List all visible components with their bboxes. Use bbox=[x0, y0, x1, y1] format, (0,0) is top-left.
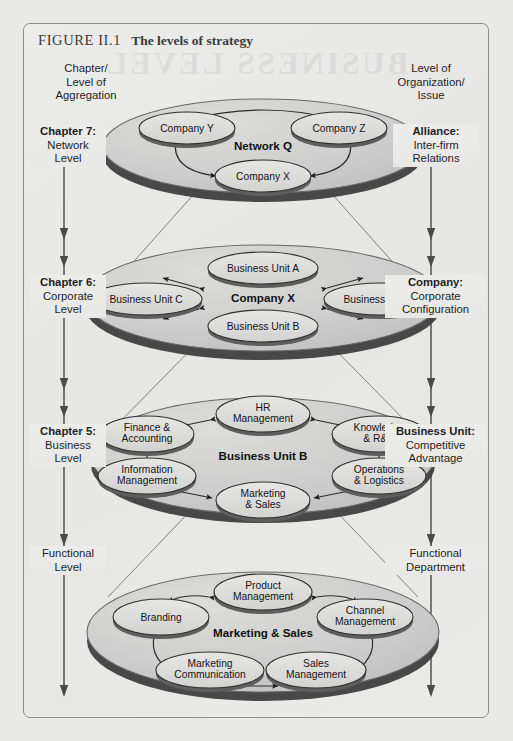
zoom-connector-lines bbox=[106, 176, 420, 597]
node-business-unit-b-corporate[interactable]: Business Unit B bbox=[208, 310, 318, 346]
node-company-x-network[interactable]: Company X bbox=[215, 160, 311, 196]
disc-label-corporate: Company X bbox=[231, 291, 295, 304]
node-label-branding: Branding bbox=[140, 612, 181, 623]
node-business-unit-c[interactable]: Business Unit C bbox=[90, 283, 202, 319]
left-label-network-line2: Network bbox=[33, 139, 103, 153]
left-label-network-line3: Level bbox=[33, 152, 103, 166]
left-label-functional: Functional Level bbox=[30, 546, 106, 575]
left-label-corporate: Chapter 6: Corporate Level bbox=[30, 275, 106, 318]
node-channel-management[interactable]: Channel Management bbox=[317, 599, 413, 639]
node-label-information-management-1: Information bbox=[121, 464, 173, 475]
node-label-marketing-communication-2: Communication bbox=[174, 669, 246, 680]
node-label-hr-management-1: HR bbox=[256, 402, 271, 413]
node-label-business-unit-a: Business Unit A bbox=[227, 263, 299, 274]
left-label-corporate-line3: Level bbox=[33, 303, 103, 317]
right-label-functional: Functional Department bbox=[385, 546, 486, 575]
left-label-business-line2: Business bbox=[33, 439, 103, 453]
right-label-corporate: Company: Corporate Configuration bbox=[385, 275, 486, 318]
node-label-company-x-network: Company X bbox=[236, 171, 290, 182]
left-label-corporate-line2: Corporate bbox=[33, 290, 103, 304]
node-label-channel-management-2: Management bbox=[335, 616, 395, 627]
node-label-channel-management-1: Channel bbox=[346, 605, 384, 616]
node-label-business-unit-c: Business Unit C bbox=[109, 294, 183, 305]
left-label-functional-line3: Level bbox=[33, 561, 103, 575]
node-branding[interactable]: Branding bbox=[113, 599, 209, 639]
right-label-corporate-line2: Corporate bbox=[388, 290, 483, 304]
node-company-z[interactable]: Company Z bbox=[291, 112, 387, 148]
node-label-marketing-sales-2: & Sales bbox=[245, 499, 281, 510]
node-label-information-management-2: Management bbox=[117, 475, 177, 486]
left-label-corporate-bold: Chapter 6: bbox=[33, 276, 103, 290]
figure-frame: BUSINESS LEVEL FIGURE II.1The levels of … bbox=[23, 23, 489, 718]
node-hr-management[interactable]: HR Management bbox=[216, 396, 310, 436]
level-disc-network[interactable]: Network Q Company Y Company Z bbox=[103, 99, 423, 202]
right-label-network-line3: Relations bbox=[396, 152, 476, 166]
diagram-stage: Chapter/ Level of Aggregation Level of O… bbox=[24, 24, 489, 718]
node-company-y[interactable]: Company Y bbox=[139, 112, 235, 148]
right-label-business-line2: Competitive bbox=[388, 439, 483, 453]
level-disc-business[interactable]: Business Unit B HR Management bbox=[91, 396, 435, 523]
disc-label-network: Network Q bbox=[234, 139, 292, 152]
right-label-business-bold: Business Unit: bbox=[388, 425, 483, 439]
node-information-management[interactable]: Information Management bbox=[98, 458, 196, 498]
left-label-network: Chapter 7: Network Level bbox=[30, 124, 106, 167]
node-product-management[interactable]: Product Management bbox=[214, 574, 312, 614]
node-label-product-management-1: Product bbox=[245, 580, 281, 591]
right-label-network: Alliance: Inter-firm Relations bbox=[393, 124, 479, 167]
disc-label-business: Business Unit B bbox=[219, 449, 308, 462]
left-label-network-bold: Chapter 7: bbox=[33, 125, 103, 139]
level-disc-functional[interactable]: Marketing & Sales Product Management bbox=[87, 572, 439, 701]
node-label-hr-management-2: Management bbox=[233, 413, 293, 424]
right-label-corporate-bold: Company: bbox=[388, 276, 483, 290]
node-label-marketing-sales-1: Marketing bbox=[240, 488, 285, 499]
left-label-business: Chapter 5: Business Level bbox=[30, 424, 106, 467]
node-label-operations-logistics-2: & Logistics bbox=[354, 475, 404, 486]
right-label-functional-line3: Department bbox=[388, 561, 483, 575]
node-label-marketing-communication-1: Marketing bbox=[187, 658, 232, 669]
left-aggregation-arrow-rail bbox=[60, 142, 68, 697]
left-label-business-bold: Chapter 5: bbox=[33, 425, 103, 439]
node-business-unit-a[interactable]: Business Unit A bbox=[208, 252, 318, 288]
right-label-business: Business Unit: Competitive Advantage bbox=[385, 424, 486, 467]
node-label-product-management-2: Management bbox=[233, 591, 293, 602]
node-label-sales-management-1: Sales bbox=[303, 658, 329, 669]
right-label-network-line2: Inter-firm bbox=[396, 139, 476, 153]
left-label-business-line3: Level bbox=[33, 452, 103, 466]
node-marketing-communication[interactable]: Marketing Communication bbox=[156, 652, 264, 692]
node-label-business-unit-b-corporate: Business Unit B bbox=[227, 321, 300, 332]
right-label-network-bold: Alliance: bbox=[396, 125, 476, 139]
node-label-company-z: Company Z bbox=[312, 123, 365, 134]
left-label-functional-line2: Functional bbox=[33, 547, 103, 561]
disc-label-functional: Marketing & Sales bbox=[213, 626, 313, 639]
node-label-finance-accounting-1: Finance & bbox=[124, 422, 170, 433]
right-label-functional-line2: Functional bbox=[388, 547, 483, 561]
node-sales-management[interactable]: Sales Management bbox=[266, 652, 366, 692]
node-label-sales-management-2: Management bbox=[286, 669, 346, 680]
node-marketing-sales-business[interactable]: Marketing & Sales bbox=[216, 482, 310, 522]
right-label-business-line3: Advantage bbox=[388, 452, 483, 466]
node-finance-accounting[interactable]: Finance & Accounting bbox=[100, 416, 194, 456]
node-label-finance-accounting-2: Accounting bbox=[122, 433, 173, 444]
right-label-corporate-line3: Configuration bbox=[388, 303, 483, 317]
node-label-company-y: Company Y bbox=[160, 123, 214, 134]
